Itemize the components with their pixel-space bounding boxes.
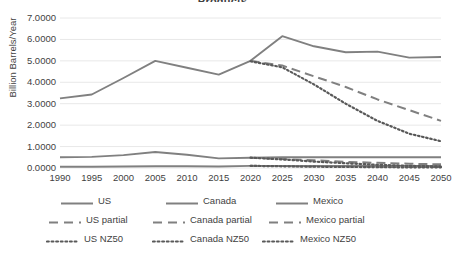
legend-label: US [98,195,111,206]
legend-swatch-dashed [48,214,82,225]
y-axis-tick: 2.0000 [2,120,56,130]
legend-swatch-dotted [46,233,80,244]
legend-swatch-dashed [152,214,186,225]
legend-label: Canada [203,195,236,206]
y-axis-tick: 3.0000 [2,99,56,109]
legend-swatch-dotted [152,233,186,244]
x-axis-tick: 2000 [107,172,141,183]
legend-swatch-dotted [262,233,296,244]
x-axis-tick: 2040 [361,172,395,183]
x-axis-tick: 2015 [202,172,236,183]
legend-label: Canada NZ50 [190,233,249,244]
legend-item-mexico[interactable]: Mexico [275,191,343,210]
legend-label: Canada partial [190,214,252,225]
legend-label: Mexico [313,195,343,206]
y-axis-tick: 4.0000 [2,77,56,87]
x-axis-tick: 1990 [43,172,77,183]
legend-label: Mexico NZ50 [300,233,356,244]
x-axis-tick: 2025 [265,172,299,183]
plot-svg [60,18,441,168]
legend-row: US partialCanada partialMexico partial [0,210,445,229]
x-axis-tick: 2005 [138,172,172,183]
x-axis-tick: 2045 [392,172,426,183]
x-axis-tick: 2030 [297,172,331,183]
legend-label: US partial [86,214,128,225]
y-axis-tick: 7.0000 [2,13,56,23]
legend-item-canada-partial[interactable]: Canada partial [152,210,252,229]
x-axis-tick: 2020 [234,172,268,183]
y-axis-tick: 1.0000 [2,142,56,152]
legend-item-canada[interactable]: Canada [165,191,236,210]
legend-row: USCanadaMexico [0,191,445,210]
x-axis-tick: 2010 [170,172,204,183]
y-axis-tick-labels: 7.00006.00005.00004.00003.00002.00001.00… [0,0,56,180]
legend-swatch-solid [165,195,199,206]
chart-legend: USCanadaMexicoUS partialCanada partialMe… [0,191,445,253]
legend-label: US NZ50 [84,233,123,244]
series-line-us [60,36,441,98]
x-axis-tick: 2035 [329,172,363,183]
legend-item-us-partial[interactable]: US partial [48,210,128,229]
x-axis-tick: 2050 [424,172,456,183]
legend-swatch-solid [60,195,94,206]
legend-label: Mexico partial [306,214,365,225]
plot-area [60,18,441,168]
series-line-us-partial [251,61,442,121]
legend-swatch-dashed [268,214,302,225]
y-axis-tick: 5.0000 [2,56,56,66]
series-line-us-nz50 [251,61,442,141]
legend-item-us-nz50[interactable]: US NZ50 [46,229,123,248]
legend-item-mexico-nz50[interactable]: Mexico NZ50 [262,229,356,248]
y-axis-tick: 6.0000 [2,34,56,44]
legend-item-mexico-partial[interactable]: Mexico partial [268,210,365,229]
chart-title: Products [0,0,445,2]
x-axis-tick: 1995 [75,172,109,183]
legend-row: US NZ50Canada NZ50Mexico NZ50 [0,229,445,248]
legend-item-us[interactable]: US [60,191,111,210]
legend-item-canada-nz50[interactable]: Canada NZ50 [152,229,249,248]
legend-swatch-solid [275,195,309,206]
